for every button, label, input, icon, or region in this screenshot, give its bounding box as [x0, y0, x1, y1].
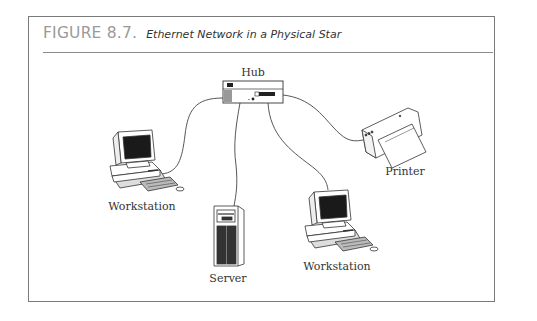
workstation-left-label: Workstation [108, 200, 175, 213]
server-label: Server [209, 272, 247, 285]
workstation-right-label: Workstation [303, 260, 370, 273]
hub-label: Hub [241, 66, 265, 79]
printer-icon [362, 108, 426, 168]
workstation-right-icon [305, 190, 378, 251]
cable-hub-printer [283, 95, 363, 141]
workstation-left-icon [110, 130, 184, 191]
cable-hub-server [234, 103, 240, 206]
cable-hub-workstation-right [268, 103, 328, 190]
cables [162, 95, 363, 206]
server-icon [214, 206, 244, 266]
printer-label: Printer [385, 165, 425, 178]
network-diagram: Hub Workstation Server [0, 0, 537, 321]
cable-hub-workstation-left [162, 98, 223, 174]
hub-icon [223, 81, 283, 103]
